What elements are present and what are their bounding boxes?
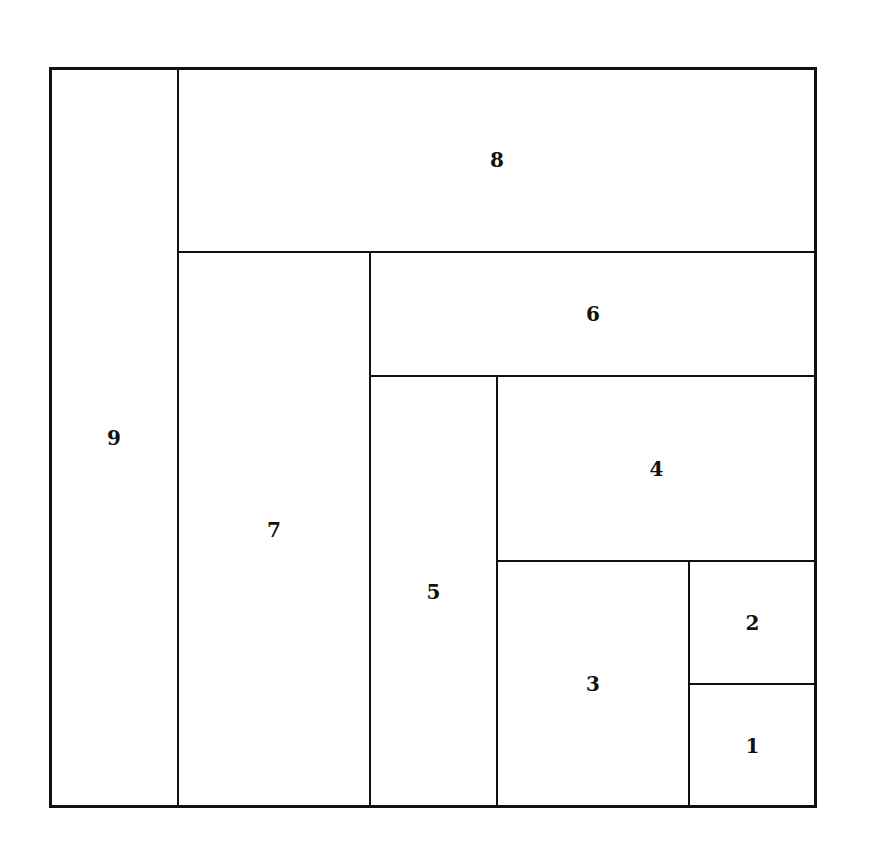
outer-frame — [49, 67, 817, 808]
